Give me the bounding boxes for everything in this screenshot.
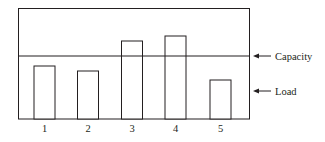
load-bars [34, 36, 231, 119]
x-tick-label-2: 2 [85, 123, 90, 134]
bar-5 [210, 80, 231, 119]
bar-2 [78, 71, 99, 119]
capacity-load-chart: 12345 Capacity Load [0, 0, 325, 142]
capacity-annotation: Capacity [253, 51, 313, 62]
capacity-arrowhead-icon [253, 54, 259, 59]
load-label: Load [275, 86, 297, 97]
bar-3 [122, 41, 143, 119]
x-tick-label-5: 5 [218, 123, 223, 134]
load-arrowhead-icon [253, 89, 259, 94]
x-tick-label-4: 4 [173, 123, 179, 134]
capacity-label: Capacity [275, 51, 313, 62]
x-axis-tick-labels: 12345 [42, 123, 223, 134]
load-annotation: Load [253, 86, 297, 97]
bar-4 [165, 36, 186, 119]
x-tick-label-1: 1 [42, 123, 47, 134]
bar-1 [34, 66, 55, 119]
x-tick-label-3: 3 [129, 123, 134, 134]
